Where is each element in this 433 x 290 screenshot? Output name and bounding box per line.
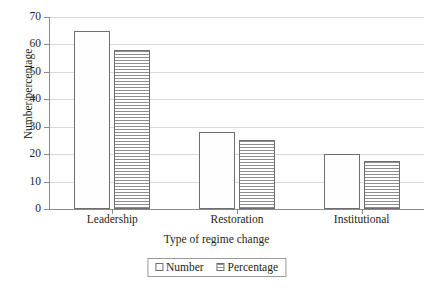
y-axis-tick-label-text: 10 (30, 176, 42, 187)
x-axis-category-label: Institutional (302, 213, 422, 225)
y-axis-tick-label-text: 70 (30, 11, 42, 22)
x-axis-category-label: Leadership (52, 213, 172, 225)
x-axis-title: Type of regime change (0, 233, 433, 245)
y-axis-tick-label-text: 0 (35, 203, 41, 214)
legend-label: Percentage (228, 261, 278, 273)
y-axis-tick-label-text: 30 (30, 121, 42, 132)
bar-leadership-number (74, 31, 110, 209)
y-axis-tick-label-text: 50 (30, 66, 42, 77)
y-axis-tick-label-text: 20 (30, 148, 42, 159)
bar-restoration-number (199, 132, 235, 209)
bar-institutional-percentage (364, 161, 400, 209)
bar-leadership-percentage (114, 50, 150, 209)
y-axis-tick-label-text: 40 (30, 93, 42, 104)
legend-swatch-icon (217, 263, 225, 271)
legend-item-number[interactable]: Number (155, 261, 204, 273)
bar-chart: Number/percentage 010203040506070 Leader… (0, 0, 433, 290)
bar-restoration-percentage (239, 140, 275, 209)
legend: NumberPercentage (147, 258, 286, 277)
plot-area (50, 17, 424, 209)
y-axis-tick-label-text: 60 (30, 38, 42, 49)
x-axis-category-label: Restoration (177, 213, 297, 225)
bar-institutional-number (324, 154, 360, 209)
legend-label: Number (166, 261, 204, 273)
legend-swatch-icon (155, 263, 163, 271)
legend-item-percentage[interactable]: Percentage (217, 261, 278, 273)
